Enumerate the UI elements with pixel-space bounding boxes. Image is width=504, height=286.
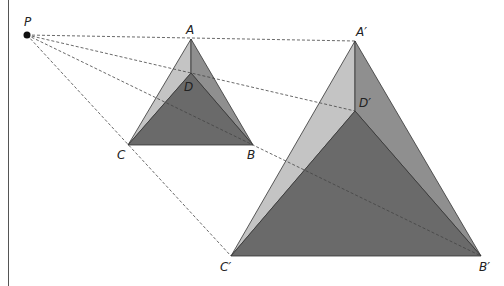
image-pyramid [231,41,481,256]
label-b-prime: B′ [479,260,490,274]
label-a-prime: A′ [355,25,367,39]
label-a: A [185,23,194,37]
center-point-p [24,32,31,39]
dilation-diagram: P A D C B A′ D′ C′ B′ [0,0,504,286]
label-c: C [117,148,126,162]
label-b: B [247,148,255,162]
label-d: D [184,80,193,94]
label-c-prime: C′ [220,260,231,274]
label-d-prime: D′ [359,96,371,110]
label-p: P [24,15,32,29]
face-b-c-d-prime [231,111,481,256]
